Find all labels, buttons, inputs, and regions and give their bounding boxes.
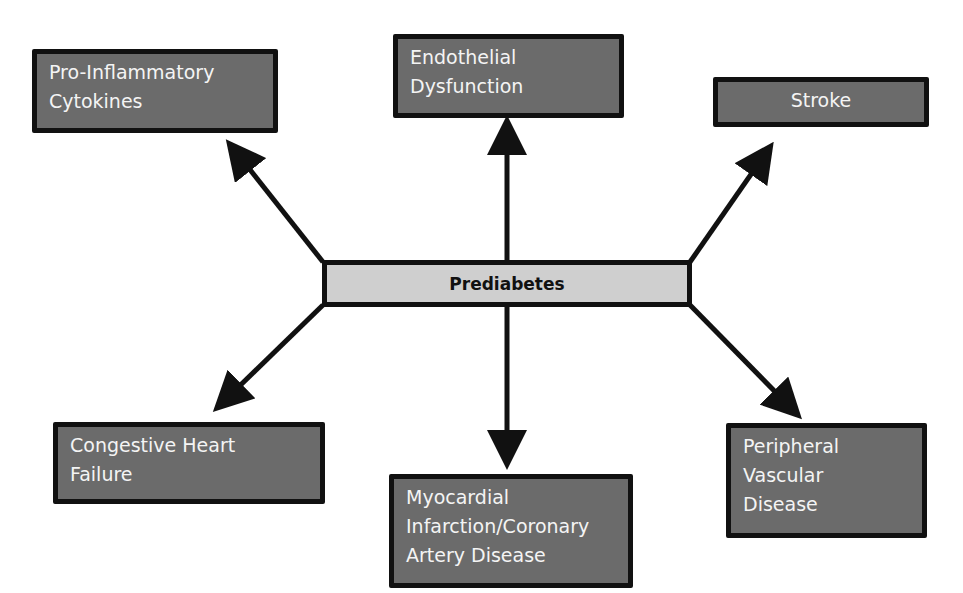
node-line: Disease [743,490,910,519]
node-line: Vascular [743,461,910,490]
node-stroke: Stroke [713,77,929,127]
node-line: Endothelial [410,43,607,72]
node-line: Cytokines [49,87,261,116]
node-line: Peripheral [743,432,910,461]
node-mi-coronary-artery-disease: Myocardial Infarction/Coronary Artery Di… [389,474,633,588]
node-endothelial-dysfunction: Endothelial Dysfunction [393,34,624,118]
node-line: Dysfunction [410,72,607,101]
arrow-to-stroke [690,150,768,262]
arrow-to-pvd [690,305,795,412]
node-line: Artery Disease [406,541,616,570]
center-label: Prediabetes [449,274,564,294]
arrow-to-chf [220,305,323,405]
node-line: Congestive Heart [70,431,308,460]
node-congestive-heart-failure: Congestive Heart Failure [53,422,325,504]
arrow-to-pro-inflammatory [232,147,323,262]
node-line: Failure [70,460,308,489]
center-node-prediabetes: Prediabetes [322,260,692,307]
node-line: Myocardial [406,483,616,512]
node-line: Pro-Inflammatory [49,58,261,87]
node-line: Stroke [730,86,912,115]
node-pro-inflammatory-cytokines: Pro-Inflammatory Cytokines [32,49,278,133]
node-line: Infarction/Coronary [406,512,616,541]
node-peripheral-vascular-disease: Peripheral Vascular Disease [726,423,927,538]
